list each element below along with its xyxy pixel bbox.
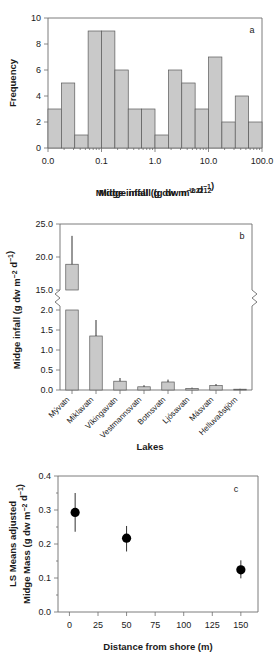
- panel-a-bar: [249, 122, 262, 148]
- panel-b-bar-upper: [66, 264, 78, 290]
- panel-c-ytick-label: 0.1: [38, 573, 51, 583]
- panel-b-ylabel: Midge infall (g dw m−2 d−1): [4, 251, 22, 369]
- panel-a-plot-area: 0 2 4 6 8 10 0.00.11.010.0100.0 a: [31, 13, 273, 166]
- panel-b-bar-lower: [210, 386, 222, 390]
- panel-b-bar-lower: [114, 381, 126, 390]
- panel-c-xtick-label: 0: [67, 620, 72, 630]
- panel-b-bar-lower: [234, 389, 246, 390]
- panel-a-xtick-label: 0.1: [95, 156, 108, 166]
- panel-c-xtick-label: 75: [150, 620, 160, 630]
- panel-a-ytick-5: 10: [31, 13, 41, 23]
- panel-c-ytick-label: 0.0: [38, 607, 51, 617]
- panel-b-axis-break-left: [55, 290, 60, 298]
- panel-b-lower-ytick-label: 0.5: [40, 365, 53, 375]
- panel-c-ytick-label: 0.4: [38, 471, 51, 481]
- panel-a-bar: [115, 70, 128, 148]
- panel-a-bar: [222, 122, 235, 148]
- panel-c-xtick-label: 125: [205, 620, 220, 630]
- panel-c-point: [71, 508, 80, 517]
- panel-b-axis-break-right: [252, 290, 257, 298]
- panel-c-axes: [58, 476, 258, 612]
- panel-b-xlabel: Lakes: [137, 441, 164, 452]
- panel-b-lower-ytick-label: 1.5: [40, 325, 53, 335]
- panel-a-xtick-label: 10.0: [200, 156, 218, 166]
- panel-c-xlabel: Distance from shore (m): [103, 641, 212, 652]
- panel-b-lower-y-ticks: 0.00.51.01.52.0: [40, 305, 60, 395]
- panel-a-svg: 0 2 4 6 8 10 0.00.11.010.0100.0 a Midge …: [0, 0, 278, 210]
- panel-a-ytick-3: 6: [36, 65, 41, 75]
- panel-c-svg: 0.00.10.20.30.4 0255075100125150 c LS Me…: [0, 460, 278, 658]
- panel-c-x-ticks: 0255075100125150: [67, 612, 248, 630]
- panel-c-xtick-label: 150: [233, 620, 248, 630]
- panel-a-label: a: [249, 25, 254, 35]
- panel-a-bar: [142, 109, 155, 148]
- panel-a-bar: [48, 109, 61, 148]
- panel-b-label: b: [239, 231, 244, 241]
- panel-a-bar: [195, 109, 208, 148]
- panel-a-bar: [75, 135, 88, 148]
- panel-c-xtick-label: 100: [176, 620, 191, 630]
- panel-a-ytick-4: 8: [36, 39, 41, 49]
- panel-b-axis-break-right-lower: [252, 298, 257, 306]
- panel-a-bar: [128, 109, 141, 148]
- panel-b-bar-lower: [90, 336, 102, 390]
- panel-c-y-ticks: 0.00.10.20.30.4: [38, 471, 58, 617]
- panel-c-ylabel-line1: LS Means adjusted: [7, 501, 18, 587]
- panel-b-x-ticks: [72, 390, 240, 394]
- panel-b-lower-ytick-label: 2.0: [40, 305, 53, 315]
- panel-a-bar: [182, 83, 195, 148]
- panel-b-svg: 25.0 20.0 15.0 b 0.00.51.01.52.0 MývatnM…: [0, 210, 278, 460]
- panel-b-lakes: 25.0 20.0 15.0 b 0.00.51.01.52.0 MývatnM…: [0, 210, 278, 460]
- panel-c-point: [236, 565, 245, 574]
- panel-b-bar-lower: [66, 310, 78, 390]
- panel-a-ytick-0: 0: [36, 143, 41, 153]
- panel-a-x-ticks: 0.00.11.010.0100.0: [42, 148, 274, 166]
- panel-c-ytick-label: 0.2: [38, 539, 51, 549]
- panel-a-xlabel-text: Midge infall (g dw m−2 d−1): [96, 180, 214, 198]
- panel-b-bar-lower: [186, 388, 198, 390]
- panel-c-ls-means: 0.00.10.20.30.4 0255075100125150 c LS Me…: [0, 460, 278, 658]
- panel-b-bar-lower: [138, 387, 150, 390]
- panel-b-upper-region: 25.0 20.0 15.0 b: [35, 219, 257, 298]
- panel-a-bar: [168, 70, 181, 148]
- panel-a-bar: [155, 135, 168, 148]
- panel-a-histogram: 0 2 4 6 8 10 0.00.11.010.0100.0 a Midge …: [0, 0, 278, 210]
- panel-a-ylabel: Frequency: [7, 58, 18, 107]
- panel-c-data-points: [71, 493, 246, 578]
- panel-a-ytick-2: 4: [36, 91, 41, 101]
- panel-a-xtick-label: 0.0: [42, 156, 55, 166]
- panel-a-y-ticks: 0 2 4 6 8 10: [31, 13, 48, 153]
- panel-a-bar: [102, 31, 115, 148]
- panel-a-xtick-label: 1.0: [149, 156, 162, 166]
- panel-c-point: [122, 534, 131, 543]
- panel-b-lower-ytick-label: 1.0: [40, 345, 53, 355]
- panel-a-bar: [61, 83, 74, 148]
- panel-b-lower-axes: [60, 306, 252, 390]
- panel-b-bar-lower: [162, 382, 174, 390]
- panel-b-upper-bars: [66, 236, 78, 290]
- panel-c-xtick-label: 50: [122, 620, 132, 630]
- panel-c-ylabel-group: LS Means adjusted Midge Mass (g dw m−2 d…: [7, 484, 32, 604]
- panel-a-xlabel-group: Midge infall (g dw m−2 d−1): [96, 180, 214, 198]
- panel-b-category-labels: MývatnMiklavatnVíkingavatnVestmannsvatnB…: [47, 395, 240, 440]
- panel-c-xtick-label: 25: [93, 620, 103, 630]
- panel-b-upper-ytick-15: 15.0: [35, 285, 53, 295]
- panel-b-lower-bars: [66, 310, 246, 390]
- panel-b-lower-region: 0.00.51.01.52.0 MývatnMiklavatnVíkingava…: [40, 298, 257, 440]
- panel-a-bar: [88, 31, 101, 148]
- panel-a-bar: [235, 96, 248, 148]
- panel-b-upper-ytick-20: 20.0: [35, 252, 53, 262]
- panel-a-bars: [48, 31, 262, 148]
- panel-c-plot-area: 0.00.10.20.30.4 0255075100125150 c: [38, 471, 258, 630]
- panel-b-upper-ytick-25: 25.0: [35, 219, 53, 229]
- panel-b-lower-ytick-label: 0.0: [40, 385, 53, 395]
- figure-root: 0 2 4 6 8 10 0.00.11.010.0100.0 a Midge …: [0, 0, 278, 658]
- panel-a-xtick-label: 100.0: [251, 156, 274, 166]
- panel-a-ytick-1: 2: [36, 117, 41, 127]
- panel-a-bar: [209, 57, 222, 148]
- panel-c-ytick-label: 0.3: [38, 505, 51, 515]
- panel-c-label: c: [234, 484, 239, 494]
- panel-b-axis-break-left-lower: [55, 298, 60, 306]
